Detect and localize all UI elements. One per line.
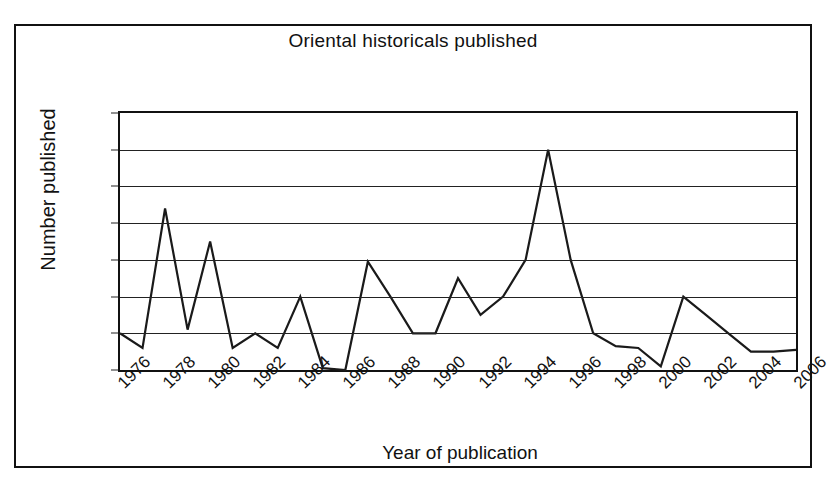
- y-axis-label: Number published: [37, 50, 60, 330]
- y-tick-mark: [111, 149, 118, 150]
- y-tick-mark: [111, 333, 118, 334]
- y-tick-mark: [111, 259, 118, 260]
- y-tick-mark: [111, 113, 118, 114]
- y-tick-mark: [111, 370, 118, 371]
- chart-title: Oriental historicals published: [0, 30, 826, 52]
- y-tick-mark: [111, 223, 118, 224]
- x-axis-label: Year of publication: [120, 442, 800, 464]
- y-tick-mark: [111, 186, 118, 187]
- x-axis-ticks: 1976197819801982198419861988199019921994…: [118, 111, 798, 372]
- y-tick-mark: [111, 296, 118, 297]
